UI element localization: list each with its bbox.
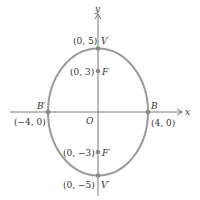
origin-label: O — [86, 116, 94, 126]
x-axis-label: x — [185, 107, 190, 117]
covertex-b-prime-point — [46, 110, 51, 115]
y-axis-label: y — [94, 4, 101, 14]
vertex-v-prime-point — [96, 173, 101, 178]
covertex-b-label: B — [150, 101, 158, 111]
vertex-v-label: V — [101, 36, 109, 46]
vertex-v-point — [96, 46, 101, 51]
covertex-b-coord: (4, 0) — [151, 118, 175, 128]
focus-f-label: F — [101, 67, 109, 77]
focus-f-point — [96, 69, 101, 74]
vertex-v-coord: (0, 5) — [73, 36, 97, 46]
ellipse-diagram: y x O (0, 5) V (0, 3) F B′ (−4, 0) B (4,… — [0, 0, 200, 200]
vertex-v-prime-coord: (0, −5) — [63, 180, 95, 190]
focus-f-prime-coord: (0, −3) — [63, 148, 95, 158]
covertex-b-prime-coord: (−4, 0) — [14, 117, 46, 127]
vertex-v-prime-label: V′ — [101, 180, 110, 190]
focus-f-prime-label: F′ — [101, 148, 110, 158]
covertex-b-point — [146, 110, 151, 115]
focus-f-prime-point — [96, 150, 101, 155]
focus-f-coord: (0, 3) — [70, 67, 94, 77]
covertex-b-prime-label: B′ — [36, 101, 46, 111]
